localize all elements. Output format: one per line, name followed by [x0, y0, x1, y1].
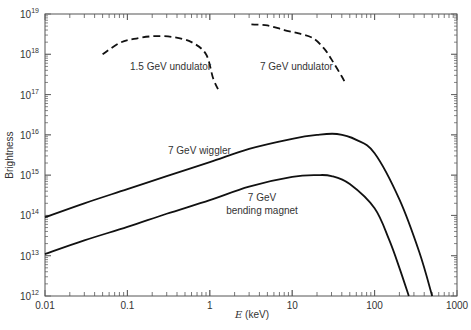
- y-tick-labels: 10121013101410151016101710181019: [20, 7, 39, 302]
- y-tick-label: 1016: [20, 128, 39, 141]
- y-axis-label: Brightness: [4, 131, 15, 178]
- annotation-7gev-undulator: 7 GeV undulator: [260, 61, 333, 72]
- y-tick-label: 1018: [20, 47, 39, 60]
- x-tick-label: 10: [287, 300, 299, 311]
- x-tick-label: 0.01: [35, 300, 55, 311]
- x-tick-label: 1: [207, 300, 213, 311]
- x-tick-label: 100: [366, 300, 383, 311]
- series-7-gev-bending-magnet: [45, 175, 409, 296]
- y-tick-label: 1017: [20, 88, 39, 101]
- annotation-7gev-wiggler: 7 GeV wiggler: [168, 145, 231, 156]
- series-7-gev-undulator: [251, 24, 346, 84]
- x-axis-label: E (keV): [234, 309, 269, 320]
- y-tick-label: 1019: [20, 7, 39, 20]
- x-tick-label: 0.1: [120, 300, 134, 311]
- x-tick-label: 1000: [446, 300, 469, 311]
- brightness-chart: 10121013101410151016101710181019 0.010.1…: [0, 0, 471, 330]
- y-tick-label: 1013: [20, 249, 39, 262]
- annotation-1-5gev-undulator: 1.5 GeV undulator: [130, 61, 212, 72]
- y-tick-label: 1015: [20, 168, 39, 181]
- y-tick-label: 1014: [20, 208, 39, 221]
- series-lines: [45, 24, 432, 296]
- annotation-7gev-bm-line1: 7 GeV: [248, 192, 277, 203]
- annotation-7gev-bm-line2: bending magnet: [226, 205, 298, 216]
- x-axis-label-unit: (keV): [242, 309, 269, 320]
